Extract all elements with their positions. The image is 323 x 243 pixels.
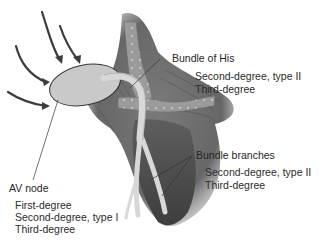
bundle-branches-block-1: Second-degree, type II — [205, 166, 311, 179]
bundle-of-his-label: Bundle of His — [172, 52, 234, 65]
conduction-diagram: Bundle of His Second-degree, type II Thi… — [0, 0, 323, 243]
bundle-of-his-block-2: Third-degree — [195, 83, 255, 96]
av-node-block-3: Third-degree — [15, 223, 75, 236]
bundle-branches-block-2: Third-degree — [205, 179, 265, 192]
bundle-branches-label: Bundle branches — [196, 149, 275, 162]
bundle-of-his-block-1: Second-degree, type II — [195, 70, 301, 83]
av-node-label: AV node — [9, 182, 49, 195]
